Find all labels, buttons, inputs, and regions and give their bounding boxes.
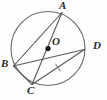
- geometry-canvas: [0, 0, 107, 100]
- center-point-dot: [45, 46, 50, 51]
- point-label-B: B: [1, 58, 8, 69]
- circle-geometry-figure: A B C D O: [0, 0, 107, 100]
- chord-BD: [14, 50, 85, 67]
- center-label-O: O: [52, 36, 60, 47]
- point-label-A: A: [59, 0, 66, 11]
- tick-on-AB: [34, 36, 40, 43]
- tick-on-CD: [55, 64, 60, 71]
- chord-BC: [14, 66, 33, 85]
- point-label-C: C: [27, 85, 34, 96]
- point-label-D: D: [93, 40, 101, 51]
